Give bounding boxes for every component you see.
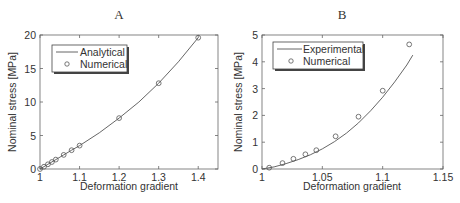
x-axis-label: Deformation gradient [303,180,401,192]
chart-title: B [338,7,347,22]
data-point-marker [407,42,412,47]
x-tick-label: 1 [259,171,265,183]
y-tick-label: 5 [30,130,36,142]
y-tick-label: 4 [252,56,258,68]
figure: A 11.11.21.31.4 05101520 Deformation gra… [0,0,460,203]
x-tick-label: 1 [37,171,43,183]
data-point-marker [333,134,338,139]
figure-canvas: A 11.11.21.31.4 05101520 Deformation gra… [0,0,460,203]
y-tick-label: 2 [252,109,258,121]
legend-label-numerical: Numerical [80,58,127,70]
y-axis-label: Nominal stress [MPa] [232,52,244,152]
y-tick-label: 1 [252,136,258,148]
x-axis-label: Deformation gradient [80,180,178,192]
legend-label-numerical: Numerical [303,55,350,67]
data-point-marker [380,88,385,93]
series-line-experimental [262,55,413,169]
chart-panel-b: B 11.051.11.15 012345 Deformation gradie… [232,7,453,192]
y-tick-label: 0 [30,163,36,175]
data-point-marker [291,156,296,161]
y-tick-label: 20 [24,29,36,41]
legend: Experimental Numerical [273,42,365,71]
y-tick-label: 5 [252,29,258,41]
legend: Analytical Numerical [52,45,129,74]
data-point-marker [356,114,361,119]
y-tick-label: 15 [24,63,36,75]
x-tick-label: 1.4 [191,171,206,183]
y-tick-label: 0 [252,163,258,175]
legend-label-analytical: Analytical [80,46,125,58]
y-tick-label: 3 [252,83,258,95]
y-axis-label: Nominal stress [MPa] [6,52,18,152]
data-point-marker [303,152,308,157]
chart-title: A [114,7,124,22]
chart-panel-a: A 11.11.21.31.4 05101520 Deformation gra… [6,7,218,192]
y-tick-label: 10 [24,96,36,108]
legend-label-experimental: Experimental [303,43,364,55]
x-tick-label: 1.15 [433,171,454,183]
